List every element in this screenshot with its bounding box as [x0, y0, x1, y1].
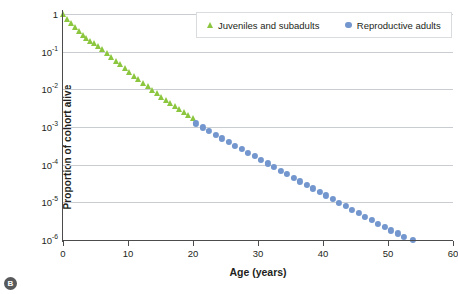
x-tick-label: 50: [383, 248, 394, 259]
legend-label-juveniles: Juveniles and subadults: [218, 20, 319, 31]
x-tick-label: 40: [318, 248, 329, 259]
data-point-adults: [310, 185, 316, 191]
x-axis-title: Age (years): [63, 266, 453, 278]
triangle-marker-icon: [207, 22, 213, 28]
data-point-adults: [252, 153, 258, 159]
data-point-adults: [193, 120, 199, 126]
data-point-adults: [271, 164, 277, 170]
y-tick-label: 10-3: [41, 122, 58, 133]
data-point-adults: [395, 230, 401, 236]
data-point-adults: [245, 149, 251, 155]
data-point-adults: [317, 189, 323, 195]
data-point-adults: [232, 143, 238, 149]
y-axis-tick-labels: 110-110-210-310-410-510-6: [0, 0, 58, 294]
data-point-adults: [343, 203, 349, 209]
legend-label-adults: Reproductive adults: [357, 20, 441, 31]
data-point-adults: [284, 171, 290, 177]
y-tick-label: 10-2: [41, 84, 58, 95]
data-point-adults: [278, 167, 284, 173]
x-tick-mark: [388, 241, 389, 246]
data-point-adults: [323, 192, 329, 198]
data-point-adults: [382, 224, 388, 230]
data-point-adults: [206, 128, 212, 134]
legend-item-adults: Reproductive adults: [345, 20, 440, 31]
y-tick-label: 1: [53, 9, 58, 20]
legend-item-juveniles: Juveniles and subadults: [207, 20, 319, 31]
data-point-adults: [239, 146, 245, 152]
data-point-adults: [200, 124, 206, 130]
data-point-adults: [362, 213, 368, 219]
data-point-adults: [219, 135, 225, 141]
x-tick-label: 10: [123, 248, 134, 259]
chart-legend: Juveniles and subadults Reproductive adu…: [196, 12, 452, 38]
x-tick-mark: [63, 241, 64, 246]
gridline-y: [63, 202, 453, 203]
x-tick-label: 30: [253, 248, 264, 259]
gridline-y: [63, 52, 453, 53]
data-point-adults: [375, 221, 381, 227]
y-tick-label: 10-6: [41, 235, 58, 246]
panel-badge: B: [4, 277, 17, 290]
gridline-y: [63, 127, 453, 128]
data-point-adults: [336, 199, 342, 205]
x-tick-label: 60: [448, 248, 458, 259]
data-point-adults: [369, 217, 375, 223]
plot-area: [63, 14, 453, 240]
gridline-y: [63, 89, 453, 90]
y-axis-line: [62, 10, 63, 242]
y-tick-label: 10-1: [41, 46, 58, 57]
x-tick-mark: [323, 241, 324, 246]
x-tick-mark: [453, 241, 454, 246]
y-tick-label: 10-4: [41, 159, 58, 170]
data-point-adults: [291, 175, 297, 181]
x-tick-mark: [128, 241, 129, 246]
x-tick-label: 20: [188, 248, 199, 259]
data-point-adults: [356, 210, 362, 216]
data-point-adults: [226, 139, 232, 145]
gridline-y: [63, 165, 453, 166]
x-tick-label: 0: [60, 248, 65, 259]
data-point-adults: [349, 207, 355, 213]
x-tick-mark: [258, 241, 259, 246]
data-point-adults: [213, 132, 219, 138]
data-point-adults: [304, 182, 310, 188]
data-point-adults: [297, 178, 303, 184]
circle-marker-icon: [345, 22, 351, 28]
y-tick-label: 10-5: [41, 197, 58, 208]
x-tick-mark: [193, 241, 194, 246]
data-point-adults: [258, 157, 264, 163]
data-point-adults: [388, 227, 394, 233]
data-point-adults: [330, 196, 336, 202]
